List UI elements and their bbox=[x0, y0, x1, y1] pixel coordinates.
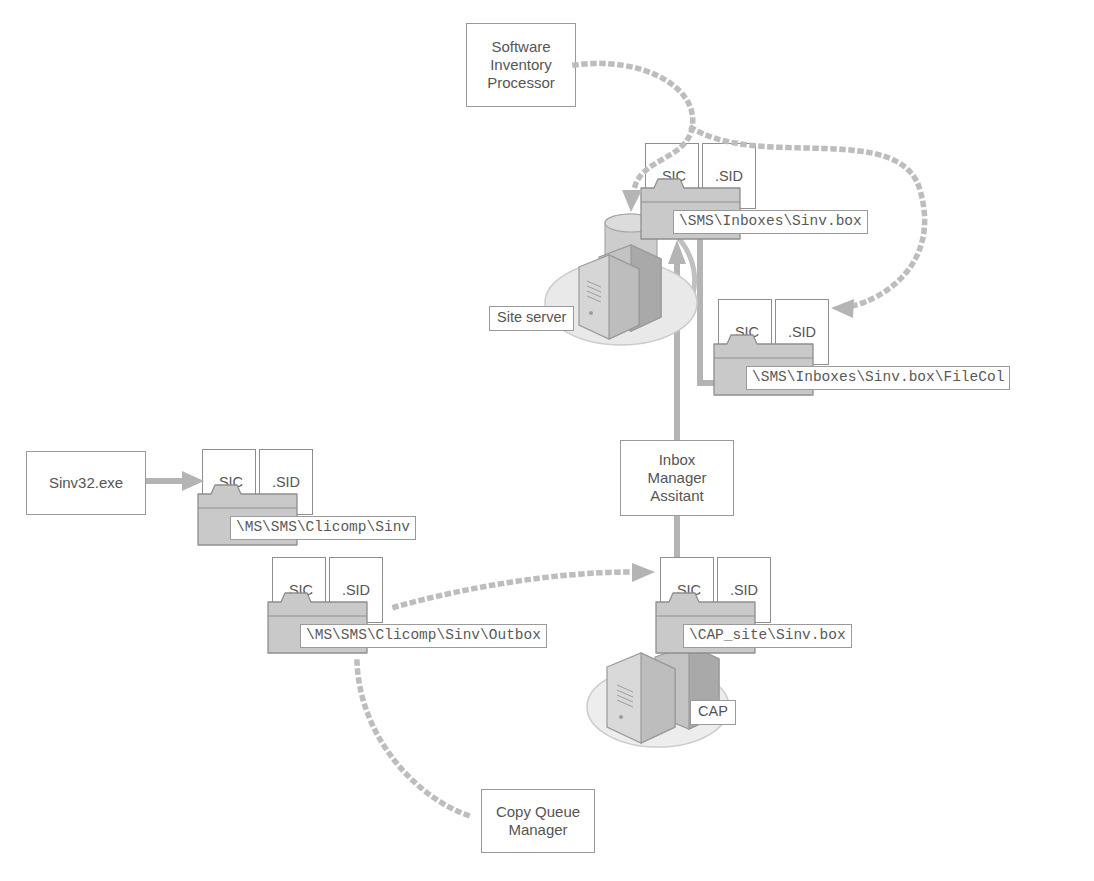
arrowhead-outbox-to-cap bbox=[632, 563, 655, 582]
arrowhead-sip-to-filecol bbox=[831, 299, 854, 318]
dotline-outbox-to-cap bbox=[395, 572, 630, 607]
arrowhead-sip-to-sinvbox bbox=[622, 190, 642, 212]
connector-lines-dotted bbox=[0, 0, 1094, 881]
diagram-canvas: Site server CAP .SIC .SID \SMS\I bbox=[0, 0, 1094, 881]
dotline-sip-to-sinvbox bbox=[575, 63, 693, 190]
dotline-outbox-to-cqm bbox=[357, 662, 470, 816]
dotline-sip-to-filecol bbox=[692, 128, 925, 306]
